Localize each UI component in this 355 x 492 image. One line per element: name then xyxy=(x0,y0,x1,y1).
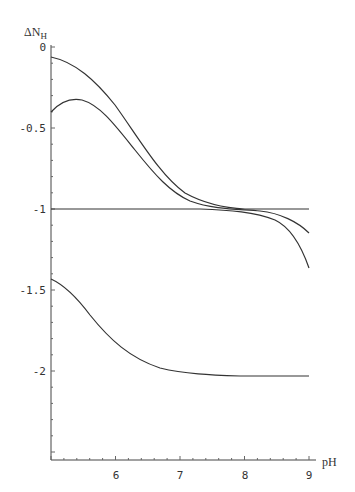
y-tick-label-minus-0-5: -0.5 xyxy=(20,122,47,135)
chart: ΔNH pH 0 -0.5 -1 -1.5 -2 6 7 8 9 xyxy=(0,0,355,492)
x-tick-label-6: 6 xyxy=(113,469,120,482)
x-tick-label-7: 7 xyxy=(177,469,184,482)
curve-1 xyxy=(51,57,309,209)
curve-4 xyxy=(51,279,309,376)
y-tick-label-0: 0 xyxy=(39,41,46,54)
y-tick-label-minus-2: -2 xyxy=(33,365,46,378)
curve-3 xyxy=(51,209,309,268)
curve-2 xyxy=(51,99,309,233)
x-tick-label-9: 9 xyxy=(306,469,313,482)
x-axis-title: pH xyxy=(322,455,337,469)
y-tick-label-minus-1: -1 xyxy=(33,203,46,216)
y-axis-title: ΔNH xyxy=(24,25,47,41)
y-tick-label-minus-1-5: -1.5 xyxy=(20,284,47,297)
x-tick-label-8: 8 xyxy=(242,469,249,482)
tick-marks xyxy=(51,47,309,460)
